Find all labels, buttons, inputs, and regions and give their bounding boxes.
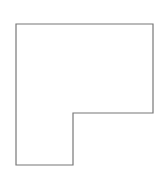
l-shape-diagram bbox=[0, 0, 164, 183]
l-shape-outline bbox=[16, 24, 153, 165]
diagram-canvas bbox=[0, 0, 164, 183]
